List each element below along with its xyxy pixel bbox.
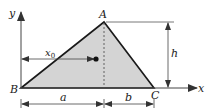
triangle-diagram: y x A B C h a b x0 <box>0 0 208 111</box>
x0-subscript: 0 <box>51 52 55 60</box>
triangle-shape <box>21 22 154 88</box>
x0-label: x0 <box>45 47 55 60</box>
vertex-a-label: A <box>98 8 107 21</box>
x-axis-label: x <box>198 82 205 95</box>
y-axis-label: y <box>8 7 16 20</box>
h-label: h <box>171 47 178 60</box>
a-label: a <box>60 91 67 104</box>
b-label: b <box>125 91 132 104</box>
centroid-dot <box>93 56 98 61</box>
vertex-b-label: B <box>9 83 18 96</box>
vertex-c-label: C <box>151 89 160 102</box>
